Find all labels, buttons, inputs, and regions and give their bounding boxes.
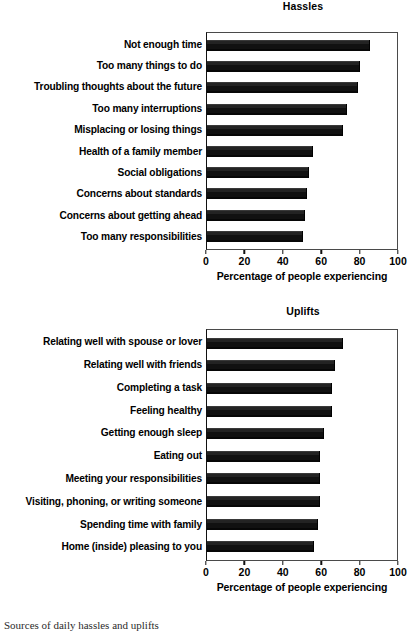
bar [207,61,360,72]
x-axis-tick-label: 40 [277,566,289,578]
chart-uplifts: Uplifts Relating well with spouse or lov… [0,305,419,625]
category-label: Home (inside) pleasing to you [0,542,206,552]
x-axis-tick-label: 60 [315,255,327,267]
x-axis-tick [320,250,321,254]
x-axis-tick-label: 20 [239,255,251,267]
bar-slot [207,188,397,199]
bar-slot [207,61,397,72]
bar-slot [207,338,397,349]
x-axis-tick-label: 40 [277,255,289,267]
category-label: Concerns about standards [0,189,206,199]
plot-area [206,32,398,250]
bar [207,383,332,394]
category-label: Relating well with spouse or lover [0,337,206,347]
bar-slot [207,383,397,394]
x-axis-tick [320,561,321,565]
x-axis-tick-label: 20 [239,566,251,578]
bar-slot [207,451,397,462]
x-axis: 020406080100 Percentage of people experi… [206,561,398,593]
x-axis-tick-label: 100 [389,255,407,267]
bar [207,406,332,417]
bar-slot [207,82,397,93]
bar-slot [207,125,397,136]
bar-group [207,33,397,249]
x-axis-tick [397,250,398,254]
category-label: Social obligations [0,168,206,178]
category-label: Concerns about getting ahead [0,211,206,221]
x-axis-tick [359,250,360,254]
bar [207,451,320,462]
bar-slot [207,167,397,178]
x-axis-title: Percentage of people experiencing [206,270,398,282]
bar [207,167,309,178]
x-axis-tick-label: 60 [315,566,327,578]
plot-area [206,329,398,561]
bar-slot [207,146,397,157]
category-label: Getting enough sleep [0,428,206,438]
figure-caption: Sources of daily hassles and uplifts [4,619,416,631]
x-axis-tick-label: 80 [354,566,366,578]
bar-slot [207,496,397,507]
bar [207,541,314,552]
category-label: Not enough time [0,40,206,50]
category-label: Too many responsibilities [0,232,206,242]
category-label: Health of a family member [0,147,206,157]
bar [207,519,318,530]
axis-spacer [0,250,206,282]
x-axis-tick-label: 0 [203,566,209,578]
bar-slot [207,541,397,552]
bar-slot [207,428,397,439]
x-axis-tick [282,250,283,254]
category-label: Troubling thoughts about the future [0,82,206,92]
category-label-column: Relating well with spouse or loverRelati… [0,329,206,561]
x-axis-tick [205,250,206,254]
bar [207,360,335,371]
bar [207,146,313,157]
bar-slot [207,40,397,51]
category-label: Misplacing or losing things [0,125,206,135]
axis-spacer [0,561,206,593]
category-label: Too many things to do [0,61,206,71]
chart-title: Hassles [208,0,398,12]
category-label: Visiting, phoning, or writing someone [0,497,206,507]
x-axis-tick-label: 80 [354,255,366,267]
bar-slot [207,210,397,221]
bar [207,40,370,51]
bar [207,125,343,136]
category-label-column: Not enough timeToo many things to doTrou… [0,32,206,250]
bar [207,104,347,115]
x-axis-tick-labels: 020406080100 [206,566,398,580]
bar-slot [207,473,397,484]
bar [207,496,320,507]
bar-slot [207,519,397,530]
chart-title: Uplifts [208,305,398,317]
chart-hassles: Hassles Not enough timeToo many things t… [0,0,419,305]
x-axis-tick [282,561,283,565]
x-axis-title: Percentage of people experiencing [206,581,398,593]
bar [207,188,307,199]
x-axis-tick [244,250,245,254]
bar-group [207,330,397,560]
figure-two-bar-charts: Hassles Not enough timeToo many things t… [0,0,419,625]
x-axis-tick [205,561,206,565]
category-label: Meeting your responsibilities [0,474,206,484]
category-label: Completing a task [0,383,206,393]
category-label: Relating well with friends [0,360,206,370]
bar [207,338,343,349]
x-axis: 020406080100 Percentage of people experi… [206,250,398,282]
bar-slot [207,360,397,371]
x-axis-tick [244,561,245,565]
category-label: Eating out [0,451,206,461]
bar-slot [207,104,397,115]
x-axis-tick [397,561,398,565]
x-axis-tick-label: 0 [203,255,209,267]
category-label: Too many interruptions [0,104,206,114]
category-label: Feeling healthy [0,406,206,416]
bar [207,210,305,221]
x-axis-tick [359,561,360,565]
x-axis-tick-label: 100 [389,566,407,578]
bar [207,473,320,484]
x-axis-tick-labels: 020406080100 [206,255,398,269]
category-label: Spending time with family [0,520,206,530]
bar-slot [207,406,397,417]
